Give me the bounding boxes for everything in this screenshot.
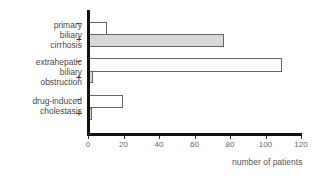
x-tick-label: 40	[149, 140, 169, 149]
x-tick-label: 100	[256, 140, 276, 149]
x-tick-label: 0	[78, 140, 98, 149]
y-axis	[87, 10, 90, 136]
sign-minus: −	[74, 18, 84, 29]
x-tick	[124, 136, 125, 139]
x-tick	[159, 136, 160, 139]
x-axis-title: number of patients	[232, 157, 302, 167]
x-tick-label: 80	[220, 140, 240, 149]
x-tick-label: 120	[291, 140, 311, 149]
sign-minus: −	[74, 56, 84, 67]
bar-dic-minus	[89, 95, 123, 108]
sign-plus: +	[74, 34, 84, 45]
sign-plus: +	[74, 72, 84, 83]
x-tick	[266, 136, 267, 139]
horizontal-bar-chart: primary biliary cirrhosis extrahepatic b…	[0, 0, 323, 178]
x-tick	[230, 136, 231, 139]
x-tick-label: 60	[185, 140, 205, 149]
x-tick	[301, 136, 302, 139]
bar-ebo-minus	[89, 58, 282, 72]
bar-pbc-plus	[89, 34, 224, 47]
sign-minus: −	[74, 94, 84, 105]
x-tick	[195, 136, 196, 139]
x-tick	[88, 136, 89, 139]
x-tick-label: 20	[114, 140, 134, 149]
sign-plus: +	[74, 108, 84, 119]
